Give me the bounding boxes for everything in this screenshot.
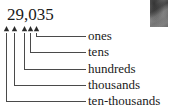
connector-ten-thousands xyxy=(7,33,87,102)
arrowhead-ten-thousands xyxy=(4,26,9,31)
place-label-ten-thousands: ten-thousands xyxy=(88,94,160,108)
corner-photo-fragment xyxy=(150,0,168,27)
connector-thousands xyxy=(15,33,87,86)
arrowhead-hundreds xyxy=(22,26,27,31)
number-value: 29,035 xyxy=(7,5,54,24)
connector-hundreds xyxy=(25,33,87,70)
connector-tens xyxy=(31,33,87,53)
arrowhead-tens xyxy=(28,26,33,31)
arrowhead-ones xyxy=(34,26,39,31)
place-label-ones: ones xyxy=(88,29,112,43)
arrowhead-thousands xyxy=(12,26,17,31)
place-label-thousands: thousands xyxy=(88,78,140,92)
place-value-diagram: 29,035 ones tens hundreds thousands ten-… xyxy=(0,0,170,109)
place-label-tens: tens xyxy=(88,45,109,59)
place-label-hundreds: hundreds xyxy=(88,62,136,76)
connector-ones xyxy=(37,33,87,37)
